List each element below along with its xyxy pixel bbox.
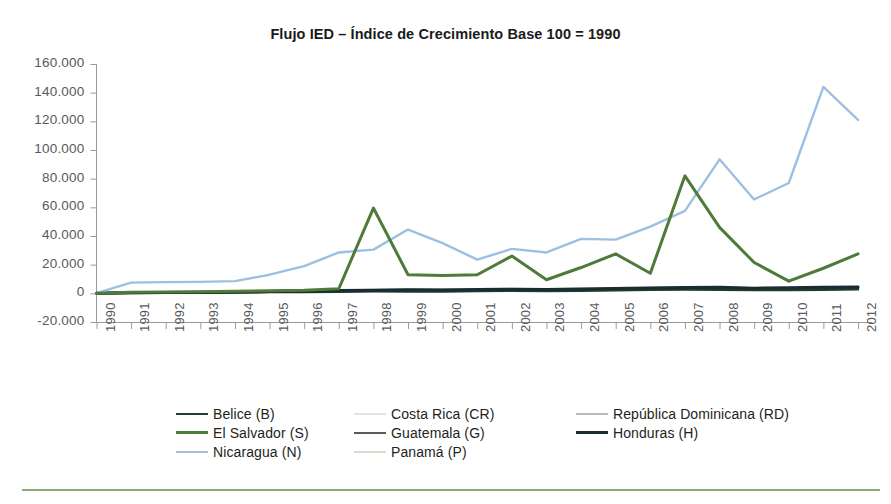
y-axis-ticks (91, 65, 97, 323)
x-axis-tick-label: 1991 (137, 302, 152, 332)
plot-svg (0, 0, 891, 400)
x-axis-tick-label: 2010 (795, 302, 810, 332)
legend-label: Honduras (H) (613, 425, 698, 441)
x-axis-tick-label: 2009 (760, 302, 775, 332)
legend-item-n[interactable]: Nicaragua (N) (176, 442, 301, 461)
legend-label: República Dominicana (RD) (613, 406, 789, 422)
y-axis-tick-label: 20.000 (0, 256, 85, 271)
x-axis-tick-label: 2001 (483, 302, 498, 332)
legend-label: Belice (B) (213, 406, 275, 422)
chart-figure: Flujo IED – Índice de Crecimiento Base 1… (0, 0, 891, 504)
y-axis-tick-label: 0 (0, 284, 85, 299)
legend-swatch-icon (176, 413, 208, 415)
legend-item-g[interactable]: Guatemala (G) (354, 423, 485, 442)
legend-item-cr[interactable]: Costa Rica (CR) (354, 404, 494, 423)
plot-area: 160.000140.000120.000100.00080.00060.000… (0, 0, 891, 400)
legend-swatch-icon (354, 413, 386, 415)
legend-item-b[interactable]: Belice (B) (176, 404, 275, 423)
y-axis-tick-label: 120.000 (0, 112, 85, 127)
legend-label: Guatemala (G) (391, 425, 485, 441)
x-axis-tick-label: 1998 (379, 302, 394, 332)
x-axis-tick-label: 1990 (103, 302, 118, 332)
data-series-group (97, 87, 859, 293)
x-axis-tick-label: 2011 (829, 303, 844, 332)
legend-swatch-icon (176, 451, 208, 453)
x-axis-tick-label: 2004 (587, 302, 602, 332)
footer-divider (22, 489, 880, 491)
x-axis-tick-label: 2007 (691, 302, 706, 332)
legend-label: El Salvador (S) (213, 425, 309, 441)
x-axis-tick-label: 1997 (345, 302, 360, 332)
series-line-n (97, 87, 859, 293)
legend-swatch-icon (354, 451, 386, 453)
x-axis-tick-label: 2008 (726, 302, 741, 332)
y-axis-tick-label: 80.000 (0, 170, 85, 185)
legend-label: Costa Rica (CR) (391, 406, 494, 422)
x-axis-tick-label: 2005 (622, 302, 637, 332)
x-axis-tick-label: 1995 (276, 302, 291, 332)
legend-label: Panamá (P) (391, 444, 467, 460)
y-axis-tick-label: 140.000 (0, 84, 85, 99)
x-axis-tick-label: 1994 (241, 302, 256, 332)
legend-swatch-icon (576, 413, 608, 415)
x-axis-tick-label: 2003 (552, 302, 567, 332)
y-axis-tick-label: -20.000 (0, 313, 85, 328)
legend-swatch-icon (576, 431, 608, 434)
x-axis-tick-label: 1996 (310, 302, 325, 332)
x-axis-tick-label: 2002 (518, 302, 533, 332)
series-line-s (97, 176, 859, 293)
legend-swatch-icon (176, 431, 208, 434)
x-axis-tick-label: 2006 (656, 302, 671, 332)
legend-item-s[interactable]: El Salvador (S) (176, 423, 309, 442)
y-axis-tick-label: 100.000 (0, 141, 85, 156)
x-axis-tick-label: 2012 (864, 302, 879, 332)
x-axis-tick-label: 1992 (172, 302, 187, 332)
x-axis-tick-label: 1999 (414, 302, 429, 332)
legend-label: Nicaragua (N) (213, 444, 301, 460)
legend-item-p[interactable]: Panamá (P) (354, 442, 467, 461)
y-axis-tick-label: 60.000 (0, 198, 85, 213)
x-axis-tick-label: 2000 (449, 302, 464, 332)
legend-item-rd[interactable]: República Dominicana (RD) (576, 404, 789, 423)
chart-legend: Belice (B)El Salvador (S)Nicaragua (N)Co… (176, 404, 876, 464)
y-axis-tick-label: 160.000 (0, 55, 85, 70)
legend-item-h[interactable]: Honduras (H) (576, 423, 698, 442)
y-axis-tick-label: 40.000 (0, 227, 85, 242)
legend-swatch-icon (354, 432, 386, 434)
x-axis-tick-label: 1993 (206, 302, 221, 332)
